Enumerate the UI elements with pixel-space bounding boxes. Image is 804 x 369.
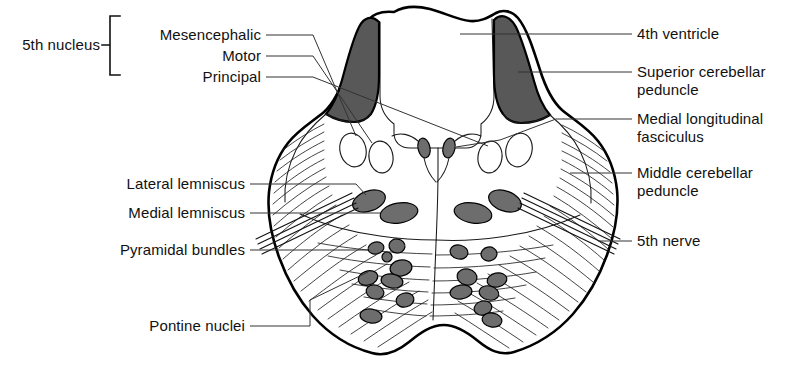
- lateral-lemniscus-label: Lateral lemniscus: [127, 175, 245, 192]
- superior-cerebellar-peduncle-label-line2: peduncle: [637, 81, 699, 98]
- motor-nucleus-label: Motor: [222, 47, 261, 64]
- superior-cerebellar-peduncle-label: Superior cerebellar: [637, 63, 766, 80]
- principal-nucleus-label: Principal: [203, 68, 261, 85]
- fourth-ventricle-label: 4th ventricle: [637, 25, 719, 42]
- superior-cerebellar-peduncle-left: [326, 18, 379, 122]
- medial-longitudinal-fasciculus-label: Medial longitudinal: [637, 110, 763, 127]
- pontine-nuclei-label: Pontine nuclei: [149, 317, 245, 334]
- fifth-nerve-label: 5th nerve: [637, 232, 700, 249]
- pons-cross-section-figure: 5th nucleus Mesencephalic Motor Principa…: [0, 0, 804, 369]
- mesencephalic-nucleus-label: Mesencephalic: [160, 26, 262, 43]
- middle-cerebellar-peduncle-label-line2: peduncle: [637, 182, 699, 199]
- medial-lemniscus-label: Medial lemniscus: [128, 204, 245, 221]
- fifth-nucleus-group-label: 5th nucleus: [22, 36, 100, 53]
- pyramidal-bundle: [382, 252, 392, 262]
- fourth-ventricle-cavity: [380, 16, 494, 148]
- fourth-ventricle-group: [380, 16, 494, 148]
- fifth-nucleus-bracket: [102, 16, 120, 75]
- pyramidal-bundles-label: Pyramidal bundles: [120, 241, 245, 258]
- pons-diagram: 5th nucleus Mesencephalic Motor Principa…: [0, 0, 804, 369]
- middle-cerebellar-peduncle-label: Middle cerebellar: [637, 164, 753, 181]
- medial-longitudinal-fasciculus-label-line2: fasciculus: [637, 128, 704, 145]
